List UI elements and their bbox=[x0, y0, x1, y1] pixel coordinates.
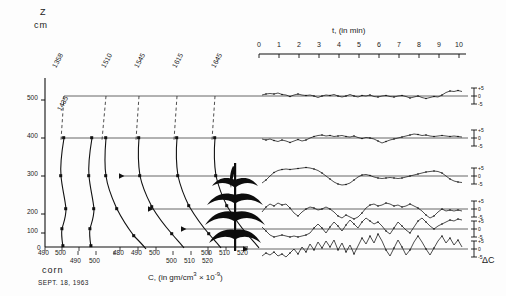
svg-text:-5: -5 bbox=[478, 181, 483, 187]
baseline-1615 bbox=[174, 96, 177, 140]
baseline-1358 bbox=[61, 96, 64, 140]
profile-data-points bbox=[59, 136, 248, 247]
trace-500 bbox=[262, 91, 462, 99]
profile-curve-1358 bbox=[61, 138, 66, 247]
profile-curve-1435 bbox=[89, 138, 94, 247]
trace-220 bbox=[262, 203, 462, 219]
figure-canvas: Z cm 1358 1435 1510 1545 1615 1645 500 4… bbox=[0, 0, 506, 296]
svg-text:+5: +5 bbox=[478, 165, 484, 171]
profile-curve-1510 bbox=[105, 138, 146, 249]
baseline-1645 bbox=[212, 96, 215, 140]
svg-text:+5: +5 bbox=[478, 127, 484, 133]
svg-text:0: 0 bbox=[478, 226, 481, 232]
trace-140 bbox=[262, 218, 462, 237]
svg-text:0: 0 bbox=[478, 206, 481, 212]
svg-text:0: 0 bbox=[478, 173, 481, 179]
svg-text:+5: +5 bbox=[478, 238, 484, 244]
fluctuation-traces bbox=[262, 91, 462, 258]
svg-text:+5: +5 bbox=[478, 198, 484, 204]
svg-text:0: 0 bbox=[478, 93, 481, 99]
svg-text:+5: +5 bbox=[478, 85, 484, 91]
left-panel-axes bbox=[41, 78, 248, 255]
svg-text:-5: -5 bbox=[478, 143, 483, 149]
delta-c-scales bbox=[471, 88, 477, 257]
baseline-1545 bbox=[136, 96, 139, 140]
profile-curve-1545 bbox=[138, 138, 184, 248]
level-connector-lines bbox=[61, 96, 468, 138]
dots-400 bbox=[265, 134, 459, 144]
svg-text:-5: -5 bbox=[478, 254, 483, 260]
dots-140 bbox=[265, 218, 459, 238]
figure-graphics: +50-5 +50-5 +50-5 +50-5 +50-5 +50-5 bbox=[0, 0, 506, 296]
svg-text:+5: +5 bbox=[478, 218, 484, 224]
svg-text:0: 0 bbox=[478, 246, 481, 252]
dots-220 bbox=[265, 202, 459, 220]
svg-text:0: 0 bbox=[478, 135, 481, 141]
svg-text:-5: -5 bbox=[478, 101, 483, 107]
baseline-1510 bbox=[102, 96, 106, 140]
profile-baselines bbox=[61, 96, 215, 140]
trace-sample-points bbox=[265, 90, 459, 255]
delta-c-tick-text: +50-5 +50-5 +50-5 +50-5 +50-5 +50-5 bbox=[478, 85, 484, 260]
t-axis bbox=[259, 54, 466, 58]
